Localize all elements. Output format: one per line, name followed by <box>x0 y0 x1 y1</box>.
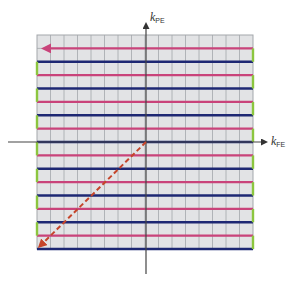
kfe-subscript: FE <box>276 141 285 148</box>
kpe-axis-label: kPE <box>150 10 165 25</box>
kpe-subscript: PE <box>155 17 164 24</box>
k-space-diagram <box>0 0 297 285</box>
kfe-axis-label: kFE <box>271 134 285 149</box>
